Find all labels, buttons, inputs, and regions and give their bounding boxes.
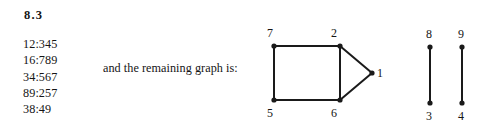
graph-vertex-6	[337, 97, 342, 102]
list-item: 34:567	[23, 69, 103, 85]
list-item: 12:345	[23, 36, 103, 52]
graph-vertex-label-8: 8	[426, 28, 432, 40]
edge-layer	[274, 46, 462, 103]
exercise-heading: 8.3	[24, 8, 43, 23]
graph-vertex-2	[337, 43, 342, 48]
graph-vertex-8	[427, 44, 432, 49]
graph-edge-2-1	[340, 46, 372, 73]
graph-vertex-4	[459, 100, 464, 105]
graph-vertex-3	[427, 100, 432, 105]
graph-vertex-label-9: 9	[458, 28, 464, 40]
graph-vertex-label-5: 5	[267, 107, 273, 119]
adjacency-list: 12:345 16:789 34:567 89:257 38:49	[23, 36, 103, 117]
list-item: 89:257	[23, 85, 103, 101]
list-item: 38:49	[23, 101, 103, 117]
graph-edge-6-1	[340, 73, 372, 100]
graph-vertex-label-4: 4	[458, 110, 464, 122]
graph-vertex-label-2: 2	[331, 27, 337, 39]
list-item: 16:789	[23, 52, 103, 68]
node-layer	[271, 43, 464, 105]
graph-vertex-label-3: 3	[426, 110, 432, 122]
graph-vertex-9	[459, 44, 464, 49]
graph-vertex-label-7: 7	[267, 27, 273, 39]
graph-diagram: 721568394	[255, 18, 493, 123]
graph-vertex-1	[369, 70, 374, 75]
graph-vertex-5	[271, 97, 276, 102]
graph-vertex-7	[271, 43, 276, 48]
graph-vertex-label-1: 1	[377, 67, 383, 79]
caption-text: and the remaining graph is:	[103, 61, 238, 76]
graph-vertex-label-6: 6	[331, 107, 337, 119]
